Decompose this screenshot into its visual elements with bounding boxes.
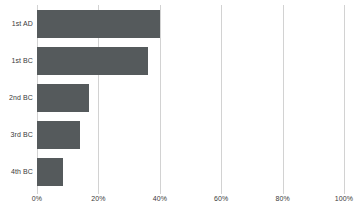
bar-chart: ‾‾‾ 1st AD1st BC2nd BC3rd BC4th BC 0%20%… xyxy=(0,0,363,215)
category-label-1st-bc: 1st BC xyxy=(0,57,33,65)
bar-4th-bc xyxy=(37,158,63,186)
value-axis: 0%20%40%60%80%100% xyxy=(0,194,363,208)
value-label-80pct: 80% xyxy=(275,194,289,203)
bar-row xyxy=(37,121,344,149)
bars-layer xyxy=(37,5,344,190)
value-label-60pct: 60% xyxy=(214,194,228,203)
gridline-100pct xyxy=(344,5,345,190)
category-axis: 1st AD1st BC2nd BC3rd BC4th BC xyxy=(0,5,33,190)
value-label-20pct: 20% xyxy=(91,194,105,203)
bar-3rd-bc xyxy=(37,121,80,149)
category-label-4th-bc: 4th BC xyxy=(0,168,33,176)
chart-title-fragment: ‾‾‾ xyxy=(37,0,344,4)
bar-row xyxy=(37,84,344,112)
category-label-3rd-bc: 3rd BC xyxy=(0,131,33,139)
bar-1st-ad xyxy=(37,10,160,38)
bar-row xyxy=(37,10,344,38)
value-label-100pct: 100% xyxy=(335,194,353,203)
bar-1st-bc xyxy=(37,47,148,75)
bar-2nd-bc xyxy=(37,84,89,112)
chart-title-fragment-text: ‾‾‾ xyxy=(187,0,194,4)
value-label-0pct: 0% xyxy=(32,194,42,203)
bar-row xyxy=(37,47,344,75)
category-label-2nd-bc: 2nd BC xyxy=(0,94,33,102)
bar-row xyxy=(37,158,344,186)
category-label-1st-ad: 1st AD xyxy=(0,20,33,28)
value-label-40pct: 40% xyxy=(153,194,167,203)
